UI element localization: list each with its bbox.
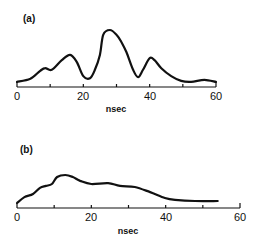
panel-b: [17, 175, 240, 208]
tick-label-b-20: 20: [85, 211, 97, 223]
tick-label-a-60: 60: [210, 90, 222, 102]
tick-label-b-40: 40: [160, 211, 172, 223]
tick-label-a-40: 40: [144, 90, 156, 102]
x-ticks-b: [17, 203, 240, 208]
tick-label-a-20: 20: [77, 90, 89, 102]
figure-canvas: [0, 0, 255, 242]
x-axis-title-a: nsec: [106, 104, 127, 114]
curve-a: [17, 30, 216, 82]
panel-label-b: (b): [20, 144, 33, 155]
x-axis-title-b: nsec: [118, 226, 139, 236]
tick-label-a-0: 0: [14, 90, 20, 102]
panel-a: [17, 30, 216, 87]
panel-label-a: (a): [23, 13, 35, 24]
curve-b: [17, 175, 218, 203]
tick-label-b-0: 0: [14, 211, 20, 223]
tick-label-b-60: 60: [234, 211, 246, 223]
